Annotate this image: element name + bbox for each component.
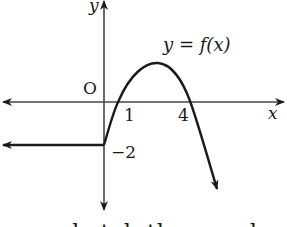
tick-label-neg2: −2	[111, 144, 136, 161]
graph-svg	[0, 0, 287, 227]
curve-label: y = f(x)	[163, 36, 231, 54]
x-axis-label: x	[268, 105, 278, 122]
tick-label-4: 4	[178, 107, 189, 124]
y-axis-label: y	[89, 0, 99, 14]
bottom-caption-text: sketch the graph y = f(x) − 1	[60, 220, 287, 227]
origin-label: O	[83, 80, 97, 97]
tick-label-1: 1	[124, 107, 135, 124]
graph-figure: y O 1 4 x −2 y = f(x) sketch the graph y…	[0, 0, 287, 227]
function-curve	[104, 63, 217, 189]
